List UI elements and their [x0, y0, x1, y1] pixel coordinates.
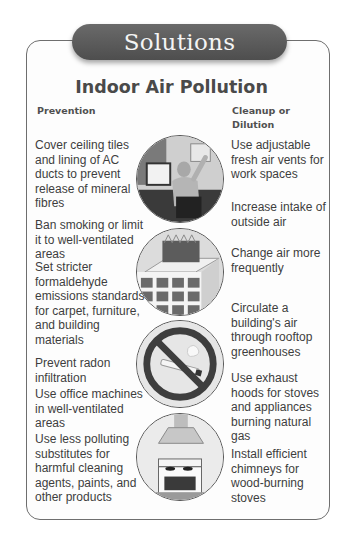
prevention-item: Prevent radon infiltration [35, 356, 145, 385]
prevention-item: Use less polluting substitutes for harmf… [35, 432, 145, 505]
cleanup-item: Use adjustable fresh air vents for work … [231, 138, 331, 182]
cleanup-item: Change air more frequently [231, 246, 331, 275]
solutions-badge: Solutions [72, 24, 287, 60]
prevention-heading: Prevention [37, 104, 96, 118]
office-worker-icon [136, 135, 224, 223]
prevention-item: Use office machines in well-ventilated a… [35, 387, 145, 431]
cleanup-item: Increase intake of outside air [231, 200, 331, 229]
cleanup-heading: Cleanup or Dilution [232, 104, 312, 132]
page-title: Indoor Air Pollution [0, 77, 343, 97]
cleanup-item: Use exhaust hoods for stoves and applian… [231, 371, 331, 444]
cleanup-item: Install efficient chimneys for wood-burn… [231, 447, 331, 505]
prevention-item: Cover ceiling tiles and lining of AC duc… [35, 138, 145, 211]
cleanup-item: Circulate a building's air through rooft… [231, 301, 331, 359]
prevention-item: Set stricter formaldehyde emissions stan… [35, 260, 145, 347]
no-smoking-icon [136, 320, 224, 408]
rooftop-greenhouse-icon [136, 228, 224, 316]
stove-hood-icon [136, 413, 224, 501]
solutions-badge-label: Solutions [124, 29, 236, 55]
prevention-item: Ban smoking or limit it to well-ventilat… [35, 218, 145, 262]
